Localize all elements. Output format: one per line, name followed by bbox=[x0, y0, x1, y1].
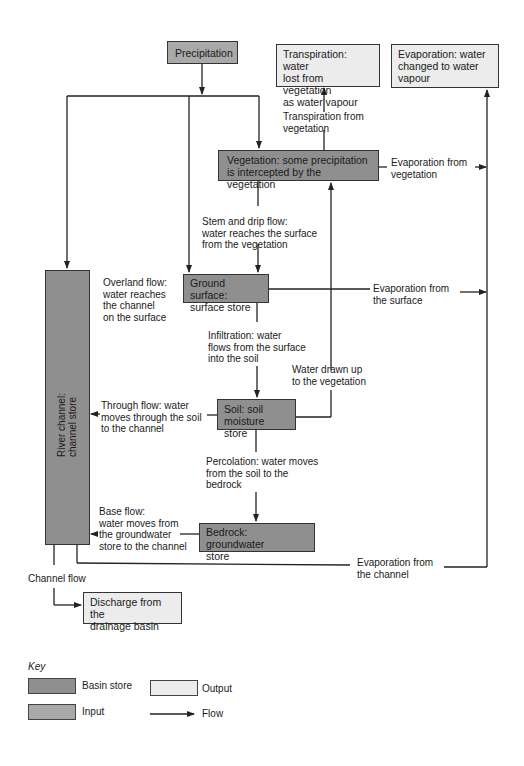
vegetation-store: Vegetation: some precipitation is interc… bbox=[218, 150, 379, 181]
key-input-label: Input bbox=[82, 706, 104, 718]
stem-drip-flow-label: Stem and drip flow: water reaches the su… bbox=[202, 216, 317, 251]
infiltration-label: Infiltration: water flows from the surfa… bbox=[208, 330, 306, 365]
key-output-swatch bbox=[150, 680, 198, 696]
evaporation-output: Evaporation: water changed to water vapo… bbox=[391, 44, 499, 88]
bedrock-store: Bedrock: groundwater store bbox=[199, 523, 315, 552]
base-flow-label: Base flow: water moves from the groundwa… bbox=[99, 506, 187, 552]
evaporation-from-channel-label: Evaporation from the channel bbox=[357, 557, 433, 580]
key-input-swatch bbox=[28, 704, 76, 720]
percolation-label: Percolation: water moves from the soil t… bbox=[206, 456, 318, 491]
drainage-basin-diagram: Precipitation Transpiration: water lost … bbox=[0, 0, 524, 766]
evaporation-from-surface-label: Evaporation from the surface bbox=[373, 283, 449, 306]
evaporation-from-vegetation-label: Evaporation from vegetation bbox=[391, 157, 467, 180]
discharge-output: Discharge from the drainage basin bbox=[83, 592, 182, 624]
soil-store: Soil: soil moisture store bbox=[217, 399, 296, 430]
ground-surface-store: Ground surface: surface store bbox=[183, 274, 269, 303]
key-output-label: Output bbox=[202, 683, 232, 695]
precipitation-input: Precipitation bbox=[167, 41, 238, 64]
river-channel-label: River channel: channel store bbox=[56, 347, 82, 457]
water-drawn-up-label: Water drawn up to the vegetation bbox=[292, 364, 366, 387]
key-title: Key bbox=[28, 661, 45, 672]
key-flow-label: Flow bbox=[202, 708, 223, 720]
overland-flow-label: Overland flow: water reaches the channel… bbox=[103, 277, 167, 323]
channel-flow-label: Channel flow bbox=[28, 573, 86, 585]
transpiration-from-vegetation-label: Transpiration from vegetation bbox=[283, 111, 364, 134]
key-basin-store-swatch bbox=[28, 678, 76, 694]
through-flow-label: Through flow: water moves through the so… bbox=[101, 400, 202, 435]
key-basin-store-label: Basin store bbox=[82, 680, 132, 692]
river-channel-store: River channel: channel store bbox=[45, 270, 90, 545]
transpiration-output: Transpiration: water lost from vegetatio… bbox=[276, 44, 380, 87]
